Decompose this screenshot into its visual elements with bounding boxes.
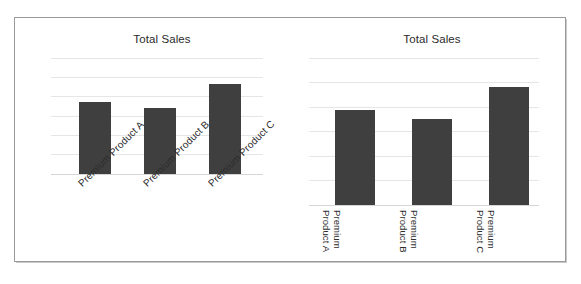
tick-label-line-1: Premium xyxy=(332,210,343,252)
bar-premium-product-a xyxy=(335,110,375,205)
axis-baseline xyxy=(309,205,539,206)
tick-label-premium-product-a: Premium Product A xyxy=(321,210,343,252)
tick-label-premium-product-b: Premium Product B xyxy=(398,210,420,253)
tick-label-premium-product-c: Premium Product C xyxy=(475,210,497,253)
bar-premium-product-c xyxy=(489,87,529,205)
tick-label-line-1: Premium xyxy=(486,210,497,253)
tick-label-line-1: Premium xyxy=(409,210,420,253)
bar-premium-product-b xyxy=(412,119,452,205)
chart-vertical-labels: Total Sales Premium Product A Premium P xyxy=(291,18,567,263)
tick-label-line-2: Product A xyxy=(321,210,332,252)
figure-page: Total Sales Premium Product A Premium Pr… xyxy=(0,0,581,284)
chart-diagonal-labels: Total Sales Premium Product A Premium Pr… xyxy=(15,18,291,263)
tick-label-line-2: Product C xyxy=(475,210,486,253)
chart-title-right: Total Sales xyxy=(291,33,567,45)
plot-area-right xyxy=(309,58,539,206)
gridline xyxy=(309,58,539,59)
chart-title-left: Total Sales xyxy=(15,33,291,45)
tick-label-line-2: Product B xyxy=(398,210,409,253)
gridline xyxy=(309,82,539,83)
gridline xyxy=(51,58,263,59)
gridline xyxy=(51,77,263,78)
figure-frame: Total Sales Premium Product A Premium Pr… xyxy=(14,17,566,262)
